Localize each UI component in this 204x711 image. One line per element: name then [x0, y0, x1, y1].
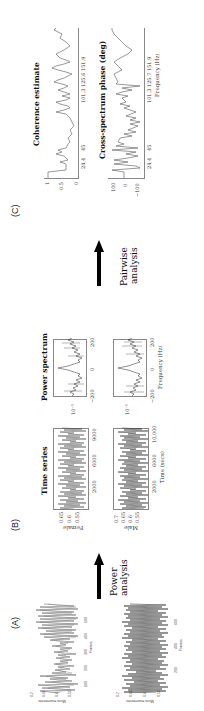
- xtick: 2000: [91, 480, 97, 493]
- cross-spectrum-xlabel: Frequency (Hz): [154, 54, 160, 97]
- xtick: −200: [89, 389, 95, 403]
- time-series-title: Time series: [40, 446, 49, 495]
- ytick: 10⁻⁵: [124, 404, 130, 415]
- xtick: 2000: [151, 480, 157, 493]
- figure: (A) Micro movements 0.7 0.65 0.6 0.55 10…: [0, 0, 204, 711]
- arrow-2-label-1: Pairwise: [120, 247, 129, 286]
- female-power-spectrum-plot: [53, 339, 87, 397]
- xlabel: Frames: [179, 639, 183, 651]
- xtick: 300: [84, 649, 88, 655]
- xtick: 6000: [91, 454, 97, 467]
- xtick: 9000: [91, 428, 97, 441]
- ytick: 0.65: [120, 512, 126, 523]
- xtick: 600: [174, 619, 178, 625]
- ytick: 0: [73, 182, 79, 185]
- panel-c-label: (C): [10, 205, 20, 218]
- xtick: 400: [174, 643, 178, 649]
- xtick: 24.4: [146, 158, 152, 169]
- ytick: 10⁻⁵: [70, 404, 76, 415]
- xtick: 45: [80, 145, 86, 151]
- xtick: 200: [89, 337, 95, 347]
- coherence-plot: [44, 28, 79, 179]
- xtick: 0: [149, 368, 155, 371]
- xtick: 100: [84, 681, 88, 687]
- xtick: −200: [149, 389, 155, 403]
- xtick: 0: [89, 368, 95, 371]
- ytick: 0.6: [66, 515, 72, 523]
- male-power-spectrum-plot: [113, 339, 147, 397]
- xtick: 45: [146, 145, 152, 151]
- time-series-xlabel: Time (secs): [159, 451, 165, 483]
- panel-b-label: (B): [10, 519, 20, 531]
- xtick: 10,000: [151, 426, 157, 444]
- female-time-series-plot: [53, 428, 89, 510]
- ytick: 0.55: [134, 512, 140, 523]
- xtick: 125.7: [146, 73, 152, 87]
- ytick: 0: [122, 184, 128, 187]
- arrow-2-label-2: analysis: [130, 247, 139, 284]
- ytick: 0.65: [58, 512, 64, 523]
- arrow-1-label-1: Power: [110, 568, 119, 596]
- plot-area: [116, 603, 172, 693]
- ylabel: Micro movements: [120, 699, 160, 703]
- xtick: 24.4: [80, 158, 86, 169]
- ytick: 0.55: [74, 512, 80, 523]
- female-ylabel: Female: [58, 525, 88, 531]
- xtick: 200: [84, 665, 88, 671]
- power-spectrum-title: Power spectrum: [40, 333, 49, 401]
- ytick: 0.7: [113, 515, 119, 523]
- male-ylabel: Male: [116, 525, 146, 531]
- ytick: 0.6: [127, 515, 133, 523]
- xtick: 151.9: [80, 57, 86, 71]
- arrow-1-label-2: analysis: [120, 559, 129, 596]
- xtick: 101.3: [80, 89, 86, 103]
- xtick: 200: [174, 667, 178, 673]
- panel-a-plot-2: Micro movements 0.7 0.65 0.6 0.55 200 40…: [108, 591, 186, 711]
- panel-a-label: (A): [10, 617, 20, 629]
- ytick: 1: [44, 182, 50, 185]
- xtick: 101.3: [146, 89, 152, 103]
- right-arrow-icon: [94, 553, 104, 599]
- cross-spectrum-title: Cross-spectrum phase (deg): [98, 41, 107, 159]
- xtick: 151.9: [146, 57, 152, 71]
- xtick: 400: [84, 633, 88, 639]
- arrow-power-analysis: [94, 553, 104, 599]
- xtick: 200: [149, 337, 155, 347]
- xtick: 6000: [151, 454, 157, 467]
- ytick: −100: [134, 183, 140, 197]
- cross-spectrum-plot: [108, 28, 145, 179]
- xlabel: Frames: [89, 641, 93, 653]
- right-arrow-icon: [94, 240, 104, 286]
- xtick: 125.6: [80, 73, 86, 87]
- ylabel: Micro movements: [32, 699, 72, 703]
- panel-a-plot-1: Micro movements 0.7 0.65 0.6 0.55 100 20…: [22, 591, 97, 711]
- power-spectrum-xlabel: Frequency (Hz): [157, 346, 163, 389]
- ytick: 100: [110, 182, 116, 192]
- coherence-title: Coherence estimate: [32, 62, 41, 146]
- male-time-series-plot: [113, 428, 149, 510]
- xtick: 500: [84, 617, 88, 623]
- plot-area: [30, 603, 82, 693]
- arrow-pairwise-analysis: [94, 240, 104, 286]
- ytick: 0.5: [58, 182, 64, 190]
